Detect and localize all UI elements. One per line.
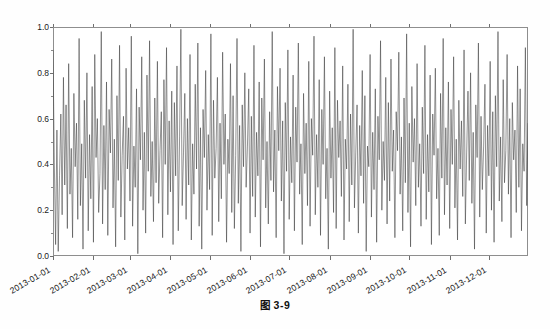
y-minor-tick <box>51 142 53 143</box>
x-tick-mark-top <box>489 24 490 28</box>
x-tick-mark-top <box>409 24 410 28</box>
y-tick-mark <box>50 164 54 165</box>
x-tick-label: 2013-01-01 <box>8 265 52 296</box>
x-tick-mark-top <box>93 24 94 28</box>
x-tick-mark <box>330 256 331 260</box>
x-tick-mark <box>210 256 211 260</box>
y-tick-mark <box>50 27 54 28</box>
x-tick-label: 2013-09-01 <box>325 265 369 296</box>
y-tick-mark <box>50 73 54 74</box>
x-tick-mark-top <box>53 24 54 28</box>
y-tick-label: 1.0 <box>37 22 49 32</box>
x-tick-label: 2013-12-01 <box>444 265 488 296</box>
x-tick-mark <box>289 256 290 260</box>
x-tick-label: 2013-02-01 <box>48 265 92 296</box>
plot-area: 0.00.20.40.60.81.0 2013-01-012013-02-012… <box>53 27 528 256</box>
x-tick-mark-top <box>250 24 251 28</box>
x-tick-mark <box>170 256 171 260</box>
x-tick-label: 2013-05-01 <box>165 265 209 296</box>
y-tick-mark <box>50 119 54 120</box>
y-tick-label: 0.0 <box>37 251 49 261</box>
x-tick-mark-top <box>130 24 131 28</box>
x-tick-label: 2013-11-01 <box>405 265 448 296</box>
y-minor-tick <box>51 187 53 188</box>
x-tick-mark-top <box>450 24 451 28</box>
x-tick-mark <box>450 256 451 260</box>
x-tick-label: 2013-06-01 <box>205 265 249 296</box>
y-tick-label: 0.4 <box>37 159 49 169</box>
x-tick-mark-top <box>289 24 290 28</box>
x-tick-mark <box>53 256 54 260</box>
y-minor-tick <box>51 96 53 97</box>
y-tick-mark <box>50 210 54 211</box>
figure-caption: 图 3-9 <box>0 297 550 312</box>
x-tick-mark <box>489 256 490 260</box>
scanned-page: 0.00.20.40.60.81.0 2013-01-012013-02-012… <box>0 0 550 329</box>
x-tick-label: 2013-07-01 <box>244 265 288 296</box>
figure-3-9: 0.00.20.40.60.81.0 2013-01-012013-02-012… <box>0 10 550 295</box>
x-tick-mark-top <box>370 24 371 28</box>
x-tick-mark <box>250 256 251 260</box>
y-minor-tick <box>51 50 53 51</box>
x-tick-mark <box>130 256 131 260</box>
page-bleed-top <box>42 0 342 9</box>
x-tick-label: 2013-10-01 <box>364 265 408 296</box>
x-tick-label: 2013-04-01 <box>125 265 169 296</box>
x-tick-mark-top <box>210 24 211 28</box>
y-tick-label: 0.8 <box>37 68 49 78</box>
x-tick-label: 2013-03-01 <box>85 265 129 296</box>
x-tick-mark <box>93 256 94 260</box>
page-bleed-bottom <box>80 314 480 323</box>
y-tick-label: 0.6 <box>37 114 49 124</box>
x-tick-mark <box>370 256 371 260</box>
x-tick-mark-top <box>170 24 171 28</box>
x-tick-mark <box>409 256 410 260</box>
y-minor-tick <box>51 233 53 234</box>
x-tick-mark-top <box>330 24 331 28</box>
x-tick-label: 2013-08-01 <box>285 265 329 296</box>
timeseries-line <box>53 27 528 256</box>
y-tick-label: 0.2 <box>37 205 49 215</box>
